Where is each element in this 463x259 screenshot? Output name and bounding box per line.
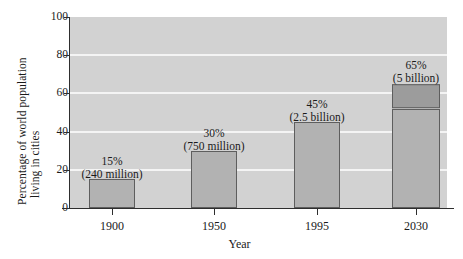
x-tick-label-2030: 2030: [404, 219, 428, 234]
x-axis-line: [62, 208, 454, 209]
x-tick-label-1995: 1995: [305, 219, 329, 234]
gridline-60: [70, 92, 447, 94]
x-tick-label-1900: 1900: [100, 219, 124, 234]
data-label-1900-pct: 15%: [81, 155, 142, 168]
x-tick-mark-2030: [416, 209, 417, 215]
chart-figure: Percentage of world population living in…: [0, 0, 463, 259]
x-tick-mark-1995: [317, 209, 318, 215]
bar-1900: [89, 179, 135, 208]
bar-1950: [191, 151, 237, 208]
x-tick-mark-1900: [112, 209, 113, 215]
data-label-1995-pct: 45%: [290, 98, 345, 111]
data-label-1995: 45% (2.5 billion): [290, 98, 345, 124]
gridline-40: [70, 131, 447, 133]
bar-2030: [392, 109, 440, 208]
data-label-1950: 30% (750 million): [183, 127, 244, 153]
data-label-2030-pct: 65%: [393, 59, 439, 72]
data-label-1900-abs: (240 million): [81, 168, 142, 181]
data-label-1995-abs: (2.5 billion): [290, 111, 345, 124]
data-label-1900: 15% (240 million): [81, 155, 142, 181]
gridline-80: [70, 54, 447, 56]
bar-1995: [294, 122, 340, 208]
x-tick-mark-1950: [214, 209, 215, 215]
x-axis-title: Year: [0, 237, 463, 252]
data-label-2030-abs: (5 billion): [393, 72, 439, 85]
data-label-2030: 65% (5 billion): [393, 59, 439, 85]
bar-2030-top-segment: [392, 84, 440, 109]
x-axis-title-text: Year: [228, 237, 250, 251]
y-axis-tick-labels: 100 80 60 40 20 0: [34, 0, 68, 259]
y-axis-title-line-1: Percentage of world population: [16, 57, 28, 205]
y-axis-title: Percentage of world population living in…: [0, 0, 34, 215]
data-label-1950-pct: 30%: [183, 127, 244, 140]
data-label-1950-abs: (750 million): [183, 140, 244, 153]
x-tick-label-1950: 1950: [202, 219, 226, 234]
